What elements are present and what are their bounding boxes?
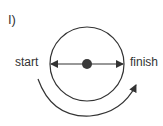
start-label: start	[15, 55, 38, 69]
diagram-canvas: I) start finish	[0, 0, 163, 126]
rotation-arc-arrow	[38, 79, 136, 116]
finish-label: finish	[130, 55, 158, 69]
center-dot	[82, 59, 92, 69]
panel-label: I)	[8, 12, 16, 27]
